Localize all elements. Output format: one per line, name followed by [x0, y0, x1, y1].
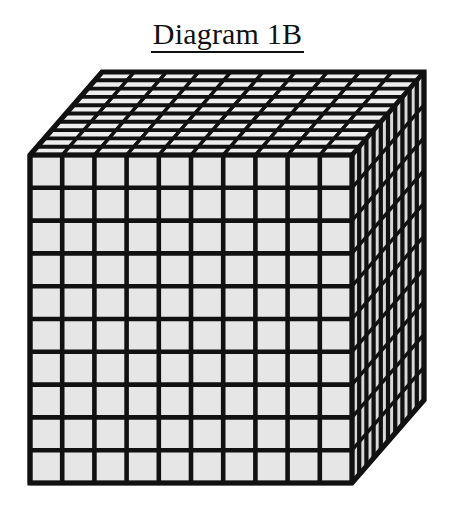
- diagram-figure: Diagram 1B: [0, 0, 455, 513]
- cube-front-face: [30, 155, 352, 483]
- thousands-cube-graphic: [0, 0, 455, 513]
